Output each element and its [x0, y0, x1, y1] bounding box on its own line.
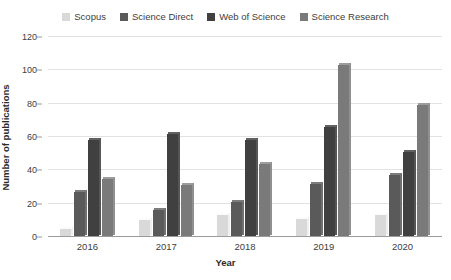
bar[interactable] [259, 164, 272, 237]
chart-legend: ScopusScience DirectWeb of ScienceScienc… [0, 12, 451, 22]
bar-face [231, 202, 242, 237]
bar-top [297, 217, 308, 219]
legend-entry[interactable]: Web of Science [207, 12, 285, 22]
bar-face [74, 192, 85, 237]
x-axis-title: Year [0, 257, 451, 268]
bar[interactable] [167, 134, 180, 237]
bar-side [256, 138, 258, 235]
bar[interactable] [74, 192, 87, 237]
bar-face [153, 210, 164, 237]
bar-side [113, 177, 115, 235]
bar[interactable] [310, 184, 323, 237]
legend-swatch-icon [62, 13, 70, 21]
bar[interactable] [417, 105, 430, 237]
bar-side [414, 150, 416, 235]
bar[interactable] [181, 185, 194, 237]
bar-face [417, 105, 428, 237]
bar-top [168, 132, 179, 134]
bar-group [127, 37, 206, 237]
bar-face [338, 65, 349, 237]
bar-side [242, 200, 244, 235]
y-tick-label: 40 [27, 165, 37, 175]
bar-face [389, 175, 400, 237]
bar[interactable] [217, 215, 230, 237]
bar-group [363, 37, 442, 237]
bar-top [75, 190, 86, 192]
legend-label: Science Research [312, 12, 389, 22]
bar-face [259, 164, 270, 237]
bar-face [139, 220, 150, 237]
bar-top [182, 183, 193, 185]
bar-top [232, 200, 243, 202]
y-tick-mark [37, 37, 42, 38]
plot-area [48, 37, 442, 237]
bar-group [284, 37, 363, 237]
bar-side [99, 138, 101, 235]
bar[interactable] [389, 175, 402, 237]
bar-side [386, 213, 388, 235]
bar[interactable] [403, 152, 416, 237]
x-tick-label: 2020 [363, 241, 442, 252]
bar-top [154, 208, 165, 210]
legend-entry[interactable]: Scopus [62, 12, 106, 22]
bar-top [260, 162, 271, 164]
bar-side [150, 218, 152, 235]
y-tick-label: 100 [22, 65, 37, 75]
y-tick-mark [37, 70, 42, 71]
bar-face [296, 219, 307, 237]
bar[interactable] [102, 179, 115, 237]
y-tick-label: 60 [27, 132, 37, 142]
y-tick-mark [37, 237, 42, 238]
bar-top [218, 213, 229, 215]
bar-group [206, 37, 285, 237]
bar-top [246, 138, 257, 140]
bar-face [217, 215, 228, 237]
bar-side [349, 63, 351, 235]
bar[interactable] [338, 65, 351, 237]
bar-face [88, 140, 99, 237]
y-tick-label: 20 [27, 199, 37, 209]
bar[interactable] [153, 210, 166, 237]
bar-side [321, 182, 323, 235]
y-tick-mark [37, 137, 42, 138]
x-axis-ticks: 20162017201820192020 [48, 241, 442, 252]
bar-top [376, 213, 387, 215]
legend-entry[interactable]: Science Research [300, 12, 389, 22]
y-axis-ticks: 020406080100120 [0, 37, 42, 237]
bar-side [85, 190, 87, 235]
bar-face [102, 179, 113, 237]
x-axis-line [48, 236, 442, 237]
bar-top [339, 63, 350, 65]
bar-top [103, 177, 114, 179]
legend-entry[interactable]: Science Direct [120, 12, 193, 22]
bar[interactable] [296, 219, 309, 237]
bar-top [89, 138, 100, 140]
bar-top [61, 227, 72, 229]
x-tick-label: 2019 [284, 241, 363, 252]
bar-side [307, 217, 309, 235]
x-tick-label: 2017 [127, 241, 206, 252]
bar-face [167, 134, 178, 237]
bar-group [48, 37, 127, 237]
bar-top [390, 173, 401, 175]
legend-swatch-icon [300, 13, 308, 21]
bars-layer [48, 37, 442, 237]
x-tick-label: 2018 [206, 241, 285, 252]
bar-top [418, 103, 429, 105]
legend-swatch-icon [207, 13, 215, 21]
bar-face [403, 152, 414, 237]
bar-side [164, 208, 166, 235]
bar[interactable] [231, 202, 244, 237]
bar-side [228, 213, 230, 235]
bar[interactable] [245, 140, 258, 237]
bar-face [181, 185, 192, 237]
bar-top [404, 150, 415, 152]
bar[interactable] [375, 215, 388, 237]
bar[interactable] [88, 140, 101, 237]
bar-top [311, 182, 322, 184]
bar-chart-figure: ScopusScience DirectWeb of ScienceScienc… [0, 0, 451, 280]
legend-label: Web of Science [219, 12, 285, 22]
bar[interactable] [324, 127, 337, 237]
legend-swatch-icon [120, 13, 128, 21]
bar[interactable] [139, 220, 152, 237]
